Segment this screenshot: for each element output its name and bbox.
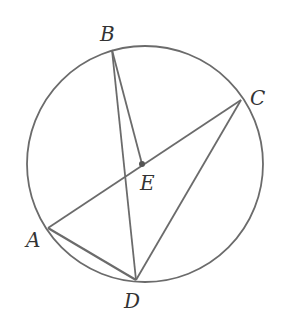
segment-BE xyxy=(112,50,142,164)
geometry-diagram: A B C D E xyxy=(0,0,283,323)
label-B: B xyxy=(99,22,115,46)
label-E: E xyxy=(139,171,155,195)
segment-BD xyxy=(112,50,136,280)
label-D: D xyxy=(123,289,140,313)
label-A: A xyxy=(24,228,40,252)
point-E-dot xyxy=(139,161,145,167)
segment-AD xyxy=(48,228,136,280)
label-C: C xyxy=(250,86,265,110)
